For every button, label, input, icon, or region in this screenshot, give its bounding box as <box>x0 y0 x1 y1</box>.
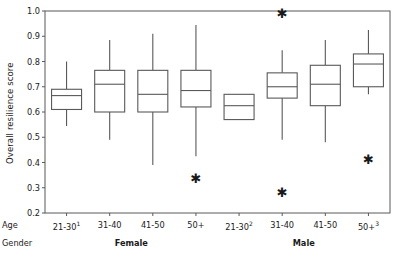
box-body <box>138 70 168 112</box>
x-axis-tick-label: 41-50 <box>141 220 165 230</box>
x-axis-tick-label: 41-50 <box>313 220 337 230</box>
y-axis-tick-label: 0.3 <box>27 183 40 193</box>
gender-group-label: Female <box>115 238 148 248</box>
box-plot-male-41-50 <box>310 40 340 142</box>
y-axis-tick-label: 0.7 <box>27 82 40 92</box>
y-axis-tick-label: 1.0 <box>27 6 40 16</box>
box-plot-male-31-40: ✱✱ <box>267 6 297 200</box>
axis-row-label-gender: Gender <box>2 238 32 248</box>
y-axis-title: Overall resilience score <box>2 8 18 218</box>
x-axis-tick-label: 21-302 <box>225 220 253 232</box>
outlier-marker: ✱ <box>277 185 288 200</box>
box-body <box>95 70 125 112</box>
x-axis-tick-label: 21-301 <box>53 220 81 232</box>
axis-row-label-age: Age <box>2 220 18 230</box>
box-body <box>224 94 254 119</box>
y-axis-tick-label: 0.4 <box>27 158 40 168</box>
box-body <box>353 54 383 87</box>
y-axis-tick-label: 0.6 <box>27 107 40 117</box>
box-body <box>267 73 297 98</box>
outlier-marker: ✱ <box>190 171 201 186</box>
box-plot-female-21-30 <box>52 62 82 126</box>
box-body <box>181 70 211 107</box>
x-axis-tick-label: 31-40 <box>98 220 122 230</box>
box-plot-male-21-30 <box>224 94 254 119</box>
y-axis-tick-label: 0.2 <box>27 208 40 218</box>
box-plot-female-50+: ✱ <box>181 25 211 187</box>
box-body <box>310 65 340 105</box>
y-axis-tick-label: 0.9 <box>27 31 40 41</box>
outlier-marker: ✱ <box>277 6 288 21</box>
y-axis-tick-labels: 1.00.90.80.70.60.50.40.30.2 <box>18 0 40 267</box>
outlier-marker: ✱ <box>363 152 374 167</box>
box-plot-female-41-50 <box>138 34 168 165</box>
x-axis-tick-label: 50+ <box>187 220 204 230</box>
box-body <box>52 89 82 109</box>
box-plot-female-31-40 <box>95 40 125 140</box>
x-axis-tick-label: 50+3 <box>358 220 379 232</box>
box-plot-male-50+: ✱ <box>353 30 383 168</box>
y-axis-tick-label: 0.5 <box>27 132 40 142</box>
boxplot-figure: Overall resilience score 1.00.90.80.70.6… <box>0 0 406 267</box>
gender-group-label: Male <box>293 238 315 248</box>
x-axis-tick-label: 31-40 <box>270 220 294 230</box>
y-axis-tick-label: 0.8 <box>27 57 40 67</box>
